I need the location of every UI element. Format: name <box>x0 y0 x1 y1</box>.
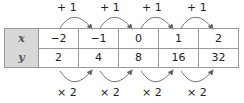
xy-table: x −2 −1 0 1 2 y 2 4 8 16 32 <box>4 28 239 68</box>
top-op-2: + 1 <box>100 1 120 14</box>
row-header-y: y <box>5 48 38 67</box>
bottom-op-1: × 2 <box>57 86 77 99</box>
bottom-arrow-1 <box>60 70 92 82</box>
y-cell: 8 <box>118 48 158 67</box>
table-row-y: y 2 4 8 16 32 <box>5 48 238 67</box>
bottom-op-3: × 2 <box>142 86 162 99</box>
bottom-arrow-4 <box>181 70 213 82</box>
top-op-1: + 1 <box>57 1 77 14</box>
top-op-3: + 1 <box>142 1 162 14</box>
x-cell: 1 <box>158 29 198 48</box>
bottom-op-4: × 2 <box>187 86 207 99</box>
row-header-x: x <box>5 29 38 48</box>
y-cell: 4 <box>78 48 118 67</box>
table-row-x: x −2 −1 0 1 2 <box>5 29 238 49</box>
bottom-arrow-2 <box>100 70 132 82</box>
x-cell: 0 <box>118 29 158 48</box>
y-cell: 2 <box>38 48 78 67</box>
bottom-op-2: × 2 <box>100 86 120 99</box>
top-op-4: + 1 <box>187 1 207 14</box>
x-cell: −2 <box>38 29 78 48</box>
y-cell: 32 <box>198 48 238 67</box>
x-cell: 2 <box>198 29 238 48</box>
bottom-arrow-3 <box>141 70 173 82</box>
y-cell: 16 <box>158 48 198 67</box>
x-cell: −1 <box>78 29 118 48</box>
